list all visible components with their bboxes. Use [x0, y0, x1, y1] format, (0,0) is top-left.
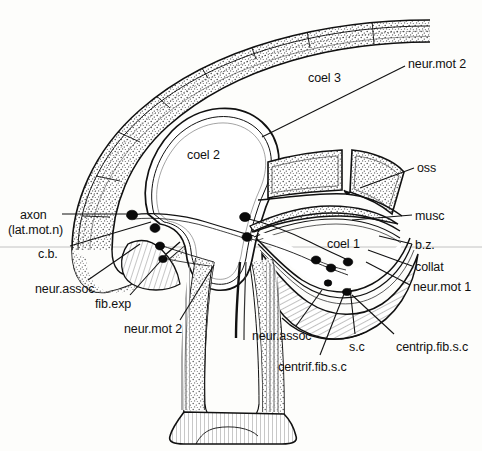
- label-centrip-fib-s-c: centrip.fib.s.c: [396, 341, 468, 354]
- label-musc: musc: [415, 210, 444, 223]
- neuron-n2: [150, 224, 160, 233]
- label-neur-assoc-left: neur.assoc: [35, 283, 94, 296]
- neuron-n7: [311, 256, 321, 264]
- label-s-c: s.c: [349, 341, 365, 354]
- neuron-n6: [242, 233, 252, 242]
- neuron-n3: [155, 242, 164, 250]
- neuron-n10: [324, 280, 332, 286]
- neuron-n9: [343, 258, 353, 266]
- label-coel-3: coel 3: [308, 72, 341, 85]
- label-coel-2: coel 2: [187, 149, 220, 162]
- label-neur-mot-1: neur.mot 1: [413, 281, 471, 294]
- label-b-z: b.z.: [415, 239, 435, 252]
- label-neur-mot-2-top: neur.mot 2: [408, 58, 466, 71]
- label-centrif-fib-s-c: centrif.fib.s.c: [278, 361, 347, 374]
- neuron-n5: [240, 212, 251, 221]
- label-c-b: c.b.: [38, 248, 58, 261]
- connective-wedge-left: [122, 241, 180, 290]
- label-axon: axon: [20, 209, 47, 222]
- label-neur-mot-2-bottom: neur.mot 2: [124, 323, 182, 336]
- figure-canvas: neur.mot 2coel 3coel 2ossmuscaxon(lat.mo…: [0, 0, 482, 451]
- label-collat: collat: [415, 261, 444, 274]
- neuron-n1: [126, 210, 137, 220]
- label-neur-assoc-right: neur.assoc: [252, 330, 311, 343]
- neuron-n8: [326, 264, 336, 272]
- label-lat-mot-n: (lat.mot.n): [8, 224, 63, 237]
- label-coel-1: coel 1: [327, 238, 360, 251]
- label-fib-exp: fib.exp: [95, 298, 131, 311]
- leader-b-z: [379, 236, 412, 244]
- label-oss: oss: [417, 162, 436, 175]
